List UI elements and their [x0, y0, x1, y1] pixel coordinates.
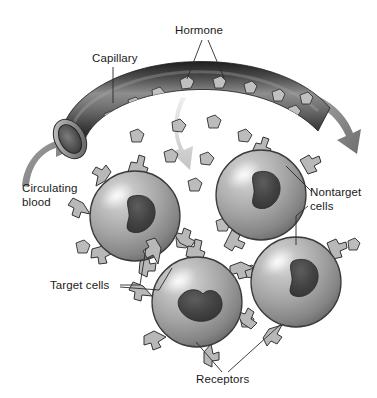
- label-circulating-blood-line2: blood: [22, 196, 51, 208]
- label-circulating-blood-line1: Circulating: [22, 182, 77, 194]
- label-target-cells: Target cells: [50, 279, 110, 291]
- label-hormone: Hormone: [175, 24, 223, 36]
- hormone-diagram-figure: Hormone Capillary Circulating blood Nont…: [0, 0, 377, 398]
- label-receptors: Receptors: [196, 373, 249, 385]
- diagram-canvas: Hormone Capillary Circulating blood Nont…: [0, 0, 377, 398]
- label-capillary: Capillary: [92, 52, 138, 64]
- label-nontarget-cells-line1: Nontarget: [310, 186, 362, 198]
- label-nontarget-cells-line2: cells: [310, 200, 334, 212]
